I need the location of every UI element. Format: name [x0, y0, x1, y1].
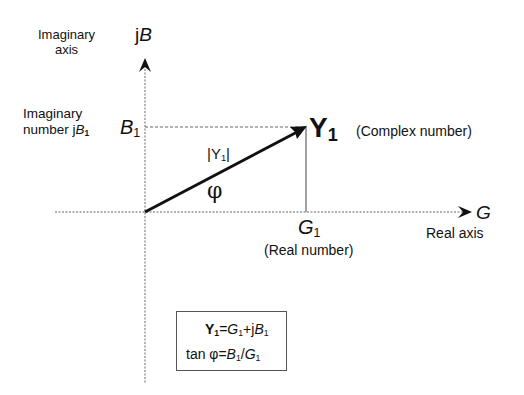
y1-sub: 1: [328, 125, 338, 145]
y1-label: Y1: [309, 114, 338, 144]
g1-label: G1: [298, 217, 320, 240]
g1-sub: 1: [314, 226, 321, 240]
b1-sub: 1: [133, 126, 140, 140]
imaginary-axis-caption-line1: Imaginary: [38, 27, 95, 42]
formula-tan-g-sub: 1: [256, 353, 261, 363]
b1-axis-label: B1: [120, 117, 140, 140]
magnitude-close: |: [226, 145, 230, 162]
y1-vector-arrow-icon: [290, 126, 307, 139]
formula-b: B: [254, 321, 263, 337]
real-axis-arrow-icon: [458, 206, 472, 218]
real-axis-caption: Real axis: [426, 226, 484, 240]
real-number-caption: (Real number): [264, 243, 353, 257]
imaginary-axis-caption: Imaginary axis: [38, 27, 95, 57]
formula-admittance: Y1=G1+jB1: [205, 321, 269, 338]
complex-number-caption: (Complex number): [356, 124, 472, 138]
angle-phi-label: φ: [207, 180, 222, 202]
imaginary-number-caption: Imaginary number jB1: [23, 106, 89, 141]
imaginary-axis-b: B: [139, 24, 152, 45]
formula-box: Y1=G1+jB1 tan φ=B1/G1: [176, 311, 287, 371]
caption-b-sub: 1: [85, 128, 90, 138]
b1-symbol: B: [120, 116, 133, 138]
y1-symbol: Y: [309, 112, 328, 143]
imaginary-number-caption-line1: Imaginary: [23, 106, 89, 122]
caption-b: B: [76, 122, 85, 137]
g1-symbol: G: [298, 216, 314, 238]
caption-number-word: number: [23, 122, 73, 137]
real-axis-symbol: G: [476, 203, 491, 222]
imaginary-axis-caption-line2: axis: [38, 42, 95, 57]
magnitude-label: |Y1|: [207, 146, 230, 164]
formula-b-sub: 1: [264, 328, 269, 338]
formula-y: Y: [205, 321, 214, 337]
imaginary-number-caption-line2: number jB1: [23, 122, 89, 141]
formula-tan-g: G: [245, 346, 256, 362]
imaginary-axis-symbol: jB: [135, 25, 152, 44]
formula-tangent: tan φ=B1/G1: [186, 346, 260, 363]
formula-tan-b: B: [227, 346, 236, 362]
magnitude-open: |Y: [207, 145, 221, 162]
formula-tan-prefix: tan φ=: [186, 346, 227, 362]
formula-g: G: [227, 321, 238, 337]
formula-plus-j: +j: [243, 321, 254, 337]
